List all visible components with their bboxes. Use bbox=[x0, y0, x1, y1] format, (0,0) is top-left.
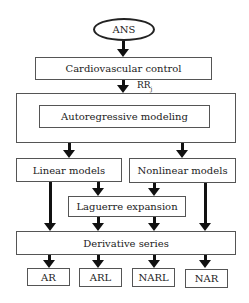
autoregressive-modeling-node: Autoregressive modeling bbox=[39, 105, 210, 128]
ans-label: ANS bbox=[113, 24, 136, 35]
arrow-nonlinear-derivative bbox=[204, 183, 207, 224]
laguerre-expansion-node: Laguerre expansion bbox=[68, 196, 186, 217]
arrowhead-icon bbox=[43, 260, 55, 268]
rr-signal-label: RRj bbox=[137, 80, 152, 92]
arrowhead-icon bbox=[199, 260, 211, 268]
arrowhead-icon bbox=[92, 188, 104, 196]
nonlinear-models-node: Nonlinear models bbox=[129, 158, 236, 183]
arrowhead-icon bbox=[148, 188, 160, 196]
arrowhead-icon bbox=[92, 223, 104, 231]
arrowhead-icon bbox=[63, 150, 75, 158]
arrowhead-icon bbox=[44, 223, 56, 231]
output-nar-node: NAR bbox=[185, 269, 228, 288]
output-arl-node: ARL bbox=[79, 268, 122, 287]
arrowhead-icon bbox=[92, 260, 104, 268]
arrow-linear-derivative bbox=[49, 182, 52, 224]
ans-node: ANS bbox=[93, 18, 155, 41]
arrowhead-icon bbox=[117, 49, 129, 57]
arrowhead-icon bbox=[117, 85, 129, 93]
output-narl-node: NARL bbox=[132, 268, 175, 287]
output-ar-node: AR bbox=[27, 268, 70, 286]
derivative-series-node: Derivative series bbox=[16, 231, 236, 255]
arrowhead-icon bbox=[176, 150, 188, 158]
linear-models-node: Linear models bbox=[16, 158, 122, 182]
arrowhead-icon bbox=[199, 223, 211, 231]
arrowhead-icon bbox=[148, 260, 160, 268]
cardiovascular-control-node: Cardiovascular control bbox=[35, 57, 212, 80]
arrowhead-icon bbox=[148, 223, 160, 231]
